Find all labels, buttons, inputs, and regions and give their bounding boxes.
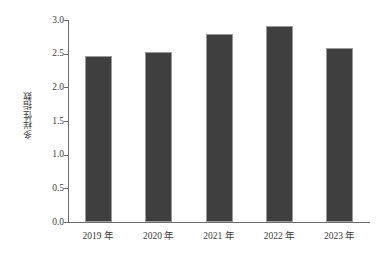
- y-axis-tick-mark: [64, 222, 68, 223]
- bar: [326, 48, 353, 222]
- y-axis-tick: 1.5: [68, 121, 69, 122]
- y-axis-tick-label: 0.5: [52, 184, 64, 194]
- bar-chart-figure: 多样性指数 0.00.51.01.52.02.53.0 2019 年2020 年…: [0, 0, 389, 266]
- y-axis-title-text: 多样性指数: [20, 91, 33, 139]
- plot-area: 0.00.51.01.52.02.53.0 2019 年2020 年2021 年…: [68, 20, 370, 222]
- y-axis-tick-label: 2.5: [52, 49, 64, 59]
- x-axis-spine: [68, 222, 370, 223]
- y-axis-tick-label: 2.0: [52, 83, 64, 93]
- y-axis-tick-mark: [64, 121, 68, 122]
- y-axis-tick-label: 3.0: [52, 16, 64, 26]
- y-axis-tick-label: 1.5: [52, 117, 64, 127]
- y-axis-tick: 0.5: [68, 188, 69, 189]
- y-axis-tick-label: 0.0: [52, 218, 64, 228]
- y-axis-tick: 3.0: [68, 20, 69, 21]
- y-axis-tick-mark: [64, 54, 68, 55]
- y-axis-tick-label: 1.0: [52, 150, 64, 160]
- y-axis-tick: 2.5: [68, 54, 69, 55]
- y-axis-tick-mark: [64, 155, 68, 156]
- x-axis-tick-label: 2023 年: [305, 228, 375, 242]
- y-axis-tick-mark: [64, 87, 68, 88]
- bar: [206, 34, 233, 222]
- y-axis-tick: 0.0: [68, 222, 69, 223]
- bar: [85, 56, 112, 222]
- y-axis-tick: 1.0: [68, 155, 69, 156]
- y-axis-title: 多样性指数: [16, 0, 36, 230]
- y-axis-tick-mark: [64, 20, 68, 21]
- bar: [266, 26, 293, 222]
- y-axis-tick: 2.0: [68, 87, 69, 88]
- bar: [145, 52, 172, 222]
- y-axis-tick-mark: [64, 188, 68, 189]
